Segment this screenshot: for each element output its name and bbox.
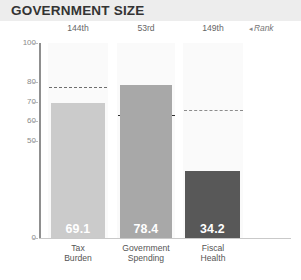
rank-label-fiscal-health: 149th — [183, 23, 243, 33]
reference-line-fiscal-health — [184, 110, 243, 111]
y-axis-tick-mark-50 — [33, 141, 38, 142]
rank-label-tax-burden: 144th — [48, 23, 108, 33]
x-axis-line — [39, 238, 291, 239]
category-label-line-1: Fiscal — [183, 243, 243, 253]
category-label-line-2: Health — [183, 253, 243, 263]
bar-value-fiscal-health: 34.2 — [185, 222, 240, 236]
category-label-tax-burden: Tax Burden — [48, 243, 108, 263]
category-label-line-2: Spending — [113, 253, 179, 263]
y-axis-line — [39, 43, 41, 239]
y-axis-tick-mark-0 — [33, 238, 38, 239]
category-label-government-spending: Government Spending — [113, 243, 179, 263]
category-label-fiscal-health: Fiscal Health — [183, 243, 243, 263]
bar-tax-burden: 69.1 — [51, 103, 105, 238]
y-axis-tick-mark-70 — [33, 102, 38, 103]
category-label-line-1: Government — [113, 243, 179, 253]
category-label-line-1: Tax — [48, 243, 108, 253]
bar-value-tax-burden: 69.1 — [51, 222, 105, 236]
reference-line-tax-burden — [49, 87, 107, 88]
y-axis-tick-mark-100 — [33, 43, 38, 44]
page-title: GOVERNMENT SIZE — [11, 3, 145, 18]
bar-government-spending: 78.4 — [120, 85, 172, 238]
government-size-bar-chart: 144th 53rd 149th ◂Rank 100807060500 69.1… — [0, 21, 301, 280]
rank-label-government-spending: 53rd — [117, 23, 175, 33]
left-caret-icon: ◂ — [249, 25, 253, 32]
bar-fiscal-health: 34.2 — [185, 171, 240, 238]
category-label-line-2: Burden — [48, 253, 108, 263]
y-axis-tick-mark-80 — [33, 82, 38, 83]
y-axis-tick-mark-60 — [33, 121, 38, 122]
rank-annotation: ◂Rank — [249, 23, 274, 33]
bar-value-government-spending: 78.4 — [120, 222, 172, 236]
chart-header-bar: GOVERNMENT SIZE — [0, 0, 301, 21]
rank-annotation-label: Rank — [254, 23, 274, 33]
